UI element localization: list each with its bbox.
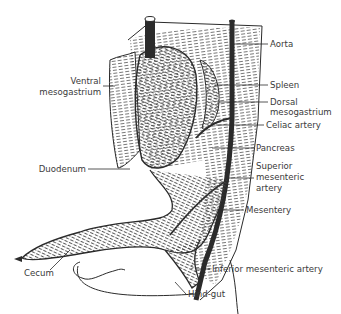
label-celiac-artery: Celiac artery xyxy=(266,120,321,130)
embryonic-gut-diagram: Aorta Spleen Dorsal mesogastrium Celiac … xyxy=(0,0,341,314)
label-ventral-mesogastrium-2: mesogastrium xyxy=(39,87,101,97)
label-aorta: Aorta xyxy=(270,39,293,49)
label-inferior-mesenteric-artery: Inferior mesenteric artery xyxy=(212,264,323,274)
label-sma-2: mesenteric xyxy=(256,172,304,182)
label-ventral-mesogastrium-1: Ventral xyxy=(70,76,101,86)
label-sma-3: artery xyxy=(256,183,282,193)
label-duodenum: Duodenum xyxy=(39,164,86,174)
label-pancreas: Pancreas xyxy=(256,143,295,153)
label-mesentery: Mesentery xyxy=(246,205,291,215)
label-spleen: Spleen xyxy=(270,80,299,90)
label-cecum: Cecum xyxy=(24,268,54,278)
esophagus xyxy=(145,18,155,58)
label-dorsal-mesogastrium-1: Dorsal xyxy=(270,97,298,107)
label-dorsal-mesogastrium-2: mesogastrium xyxy=(270,107,332,117)
label-sma-1: Superior xyxy=(256,161,292,171)
label-hind-gut: Hind-gut xyxy=(188,289,225,299)
